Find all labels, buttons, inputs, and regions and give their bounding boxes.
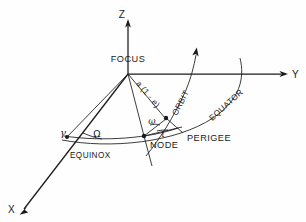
label-orbit: ORBIT (170, 89, 191, 117)
axis-y (128, 71, 288, 77)
label-focus: FOCUS (111, 54, 145, 64)
node-point (142, 134, 146, 138)
axis-label-x: X (8, 204, 15, 215)
axis-z (125, 19, 131, 74)
vernal-equinox-symbol: γ (60, 127, 66, 138)
label-equator: EQUATOR (208, 88, 246, 123)
symbol-argument-of-perigee: ω (148, 116, 156, 126)
label-equinox: EQUINOX (70, 151, 111, 160)
label-node: NODE (150, 140, 178, 150)
orbital-elements-figure: Z Y X FOCUS NODE PERIGEE EQUINOX γ ORBIT… (0, 0, 306, 222)
axis-label-z: Z (119, 9, 125, 20)
axis-label-y: Y (292, 69, 299, 80)
symbol-inclination: ι (161, 129, 165, 139)
label-perigee: PERIGEE (187, 133, 231, 143)
label-perigee-radius: a (1 - e) (134, 79, 162, 110)
diagram-canvas: Z Y X FOCUS NODE PERIGEE EQUINOX γ ORBIT… (0, 0, 306, 222)
symbol-raan: Ω (93, 128, 100, 139)
